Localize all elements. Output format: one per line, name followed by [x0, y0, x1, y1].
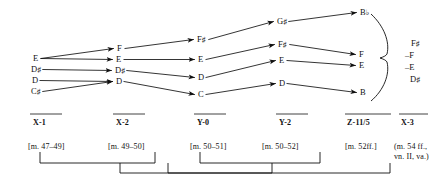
note-letter: D — [198, 72, 204, 82]
note-n_y2_Gs: G♯ — [277, 17, 287, 26]
column-label-x1: X-1 — [33, 118, 46, 127]
note-n_y2_D: D — [279, 79, 285, 88]
note-accidental: ♭ — [366, 8, 370, 17]
note-letter: E — [359, 60, 364, 70]
note-accidental: ♯ — [283, 40, 287, 49]
note-n_y0_D: D — [198, 73, 204, 82]
measure-bracket-4 — [168, 163, 390, 173]
measure-label-1: [m. 47–49] — [28, 142, 65, 151]
note-accidental: ♯ — [37, 65, 41, 74]
arrow-n_y2_D-to-n_z_B — [287, 84, 357, 93]
note-n_z_B: B — [360, 88, 366, 97]
note-letter: E — [33, 53, 38, 63]
measure-label-6: (m. 54 ff., vn. II, va.) — [394, 142, 429, 162]
note-n_x1_D: D — [32, 76, 38, 85]
note-n_x2_F: F — [117, 44, 122, 53]
note-letter: C — [198, 89, 204, 99]
arrow-n_y2_E-to-n_z_E — [287, 61, 356, 66]
note-letter: F — [117, 43, 122, 53]
arrow-n_y0_D-to-n_y2_E — [206, 61, 276, 78]
measure-label-2: [m. 49–50] — [108, 142, 145, 151]
brace-note-bn_fs: F♯ — [411, 38, 419, 48]
note-n_y0_E: E — [198, 55, 203, 64]
note-letter: E — [116, 54, 121, 64]
brace-note-accidental: ♯ — [416, 75, 420, 84]
arrow-n_x1_D-to-n_x2_D — [40, 81, 113, 82]
measure-bracket-1 — [40, 152, 155, 163]
note-letter: D — [116, 76, 122, 86]
arrow-n_x1_Ds-to-n_x2_Ds — [43, 70, 112, 71]
note-letter: B — [360, 87, 366, 97]
measure-label-4: [m. 50–52] — [262, 142, 299, 151]
measure-bracket-2 — [120, 163, 272, 173]
arrow-n_x1_E-to-n_x2_E — [41, 59, 113, 60]
note-accidental: ♯ — [121, 66, 125, 75]
note-n_y2_Fs: F♯ — [278, 40, 287, 49]
note-n_z_E: E — [359, 61, 364, 70]
right-brace — [371, 14, 388, 101]
note-n_x2_E: E — [116, 55, 121, 64]
arrow-n_y0_E-to-n_y2_Fs — [206, 45, 275, 60]
note-n_x2_Ds: D♯ — [115, 66, 125, 75]
measure-brackets — [40, 152, 390, 173]
arrow-n_x2_D-to-n_y0_C — [124, 82, 195, 95]
arrow-n_x2_Ds-to-n_y0_D — [127, 71, 195, 78]
note-n_z_Bb: B♭ — [360, 8, 369, 17]
measure-label-3: [m. 50–51] — [190, 142, 227, 151]
diagram-vector-layer — [0, 0, 446, 184]
note-letter: D — [279, 78, 285, 88]
note-n_z_F: F — [359, 50, 364, 59]
note-n_x2_D: D — [116, 77, 122, 86]
note-accidental: ♯ — [202, 35, 206, 44]
brace-note-bn_ds: D♯ — [410, 74, 420, 84]
note-accidental: ♯ — [283, 17, 287, 26]
arrow-n_y0_C-to-n_y2_D — [206, 84, 276, 95]
arrow-n_y0_Fs-to-n_y2_Gs — [209, 22, 274, 40]
column-label-x3: X-3 — [401, 118, 414, 127]
note-letter: E — [279, 55, 284, 65]
column-label-x2: X-2 — [116, 118, 129, 127]
measure-bracket-3 — [200, 152, 320, 163]
brace-note-bn_e: –E — [405, 62, 414, 72]
brace-note-accidental: ♯ — [416, 39, 420, 48]
column-label-y0: Y-0 — [197, 118, 209, 127]
diagram-canvas: ED♯DC♯FED♯DF♯EDCG♯F♯EDB♭FEB F♯–F–ED♯ X-1… — [0, 0, 446, 184]
note-letter: D — [32, 75, 38, 85]
column-label-y2: Y-2 — [279, 118, 291, 127]
arrow-n_x1_Cs-to-n_x2_D — [43, 82, 113, 92]
note-n_y0_C: C — [198, 90, 204, 99]
note-n_y0_Fs: F♯ — [197, 35, 206, 44]
note-letter: F — [359, 49, 364, 59]
measure-label-5: [m. 52ff.] — [345, 142, 377, 151]
note-letter: E — [198, 54, 203, 64]
note-accidental: ♯ — [37, 87, 41, 96]
column-label-z11: Z-11/5 — [347, 118, 370, 127]
measure-label-6-line1: (m. 54 ff., — [394, 142, 429, 152]
note-n_x1_Ds: D♯ — [31, 65, 41, 74]
note-n_x1_E: E — [33, 54, 38, 63]
arrow-n_x2_F-to-n_y0_Fs — [125, 40, 194, 49]
arrow-n_x1_E-to-n_x2_F — [41, 49, 114, 59]
arrow-n_y2_Fs-to-n_z_F — [290, 45, 356, 55]
measure-label-6-line2: vn. II, va.) — [394, 152, 429, 162]
note-n_y2_E: E — [279, 56, 284, 65]
note-n_x1_Cs: C♯ — [31, 87, 41, 96]
brace-note-bn_f: –F — [405, 50, 414, 60]
arrow-n_y2_Gs-to-n_z_Bb — [289, 13, 357, 22]
